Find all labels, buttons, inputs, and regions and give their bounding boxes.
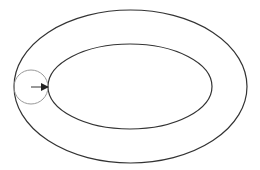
inner-ellipse bbox=[48, 44, 212, 129]
ellipse-diagram bbox=[0, 0, 260, 170]
